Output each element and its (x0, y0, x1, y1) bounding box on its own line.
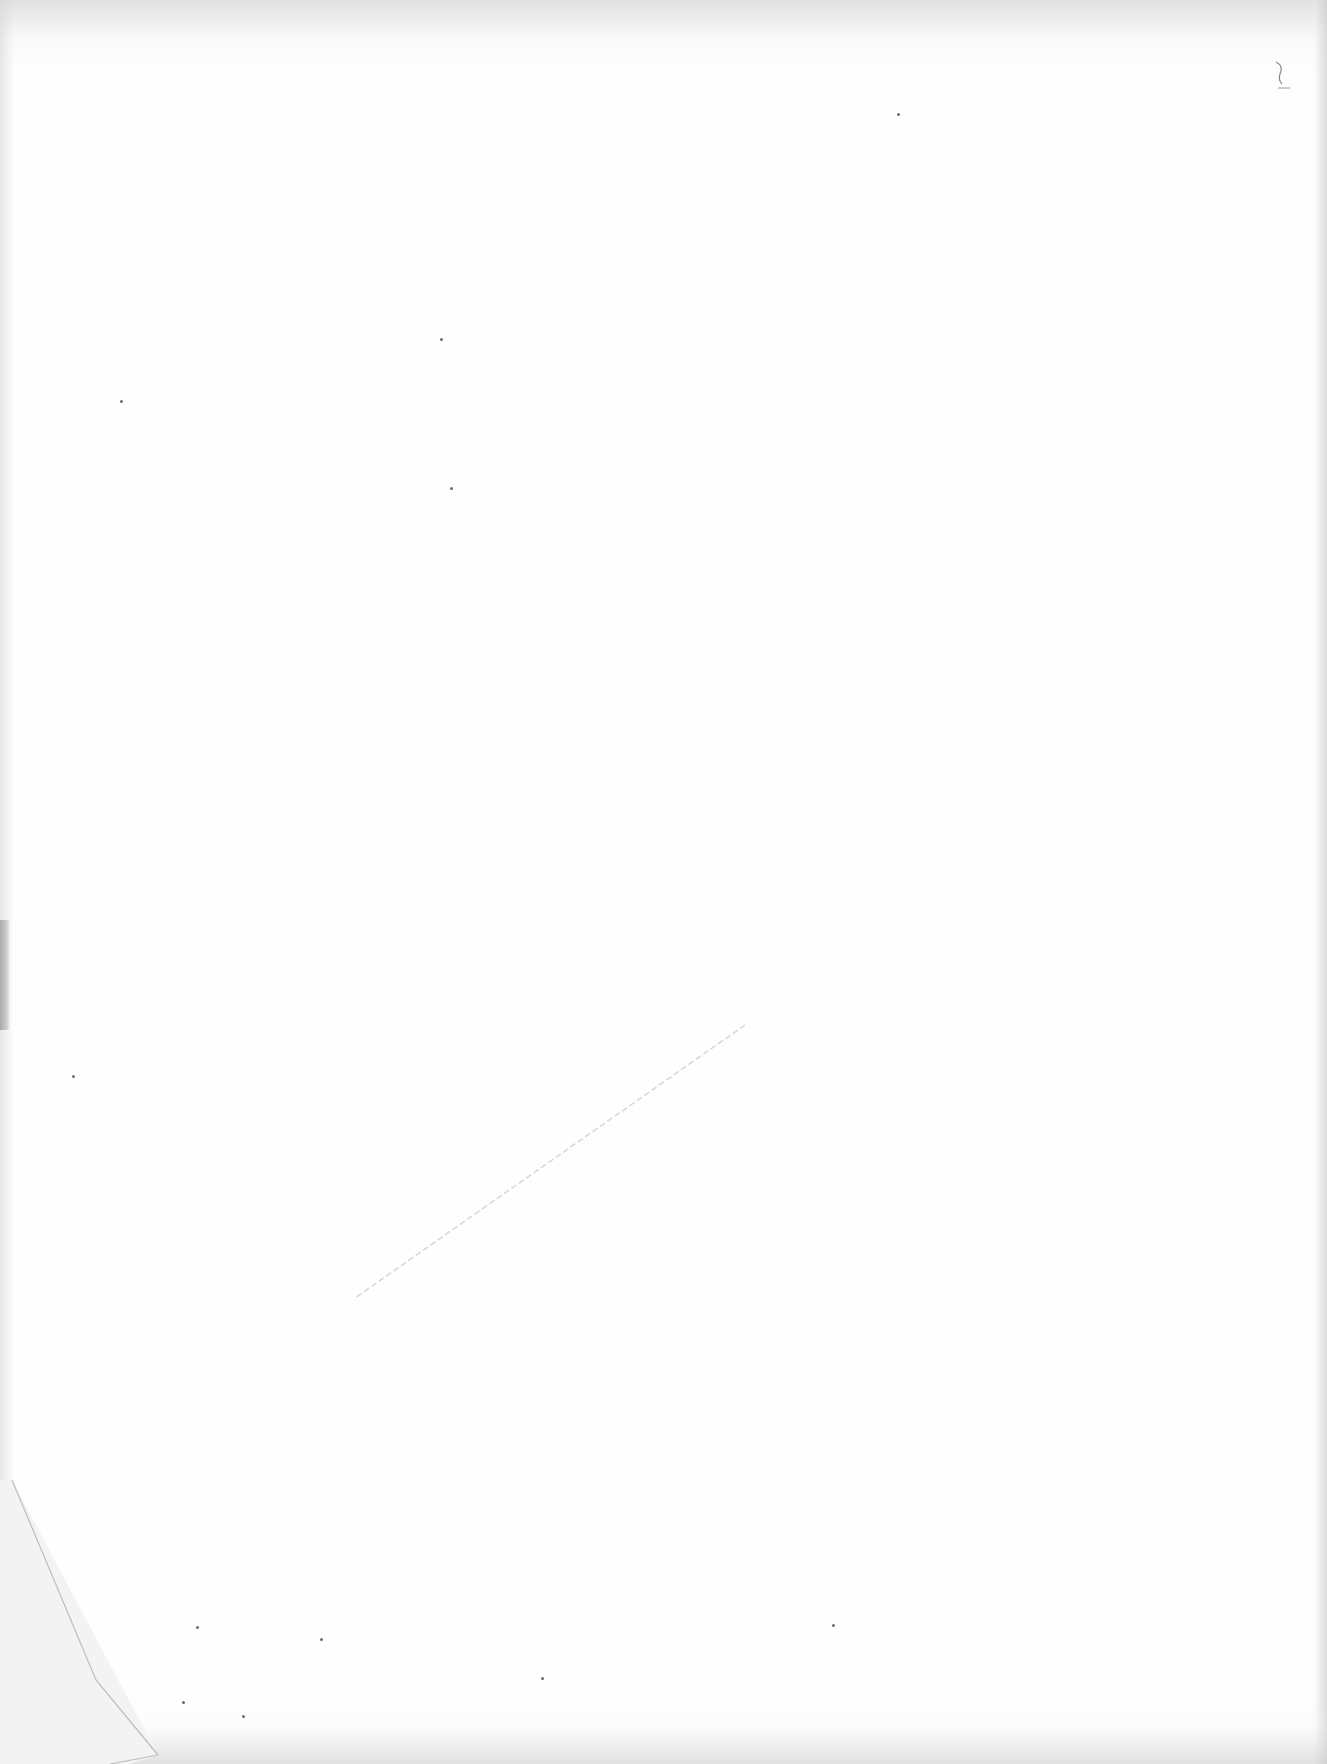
speck (541, 1677, 544, 1680)
folded-corner (0, 1480, 170, 1764)
left-edge-shadow (0, 920, 10, 1030)
speck (440, 338, 443, 341)
speck (832, 1624, 835, 1627)
top-edge-shading (0, 0, 1327, 70)
pencil-mark (1272, 58, 1292, 98)
faint-diagonal-line (0, 0, 1327, 1764)
speck (120, 400, 123, 403)
speck (182, 1701, 185, 1704)
speck (242, 1715, 245, 1718)
speck (450, 487, 453, 490)
blank-scanned-page (0, 0, 1327, 1764)
speck (897, 113, 900, 116)
speck (196, 1626, 199, 1629)
speck (72, 1075, 75, 1078)
right-edge-shading (1309, 0, 1327, 1764)
bottom-edge-shading (0, 1704, 1327, 1764)
speck (320, 1638, 323, 1641)
